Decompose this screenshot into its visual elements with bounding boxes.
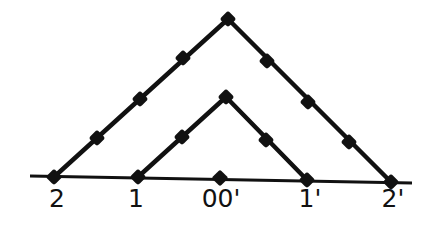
point-label: 2	[49, 186, 65, 211]
diagram-canvas: 2100'1'2'	[0, 0, 434, 226]
point-label: 2'	[382, 186, 405, 211]
inner-triangle	[138, 97, 307, 180]
point-label: 1'	[299, 186, 322, 211]
point-label: 1	[128, 186, 144, 211]
point-label: 00'	[202, 186, 241, 211]
